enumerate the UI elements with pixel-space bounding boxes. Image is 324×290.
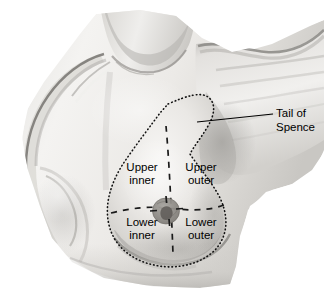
quadrant-label-upper-outer-line1: Upper xyxy=(175,161,227,174)
quadrant-label-lower-outer-line1: Lower xyxy=(175,216,227,229)
quadrant-label-lower-outer: Lower outer xyxy=(175,216,227,241)
tail-of-spence-label-line1: Tail of xyxy=(276,107,315,121)
tail-of-spence-label-line2: Spence xyxy=(276,121,315,135)
anatomy-illustration xyxy=(0,0,324,290)
quadrant-label-lower-outer-line2: outer xyxy=(175,229,227,242)
breast-anatomy-figure: Upper inner Upper outer Lower inner Lowe… xyxy=(0,0,324,290)
quadrant-label-upper-outer-line2: outer xyxy=(175,174,227,187)
quadrant-label-lower-inner-line2: inner xyxy=(117,229,167,242)
quadrant-label-upper-inner: Upper inner xyxy=(117,161,167,186)
quadrant-label-lower-inner: Lower inner xyxy=(117,216,167,241)
tail-of-spence-label: Tail of Spence xyxy=(276,107,315,134)
quadrant-label-upper-inner-line2: inner xyxy=(117,174,167,187)
quadrant-label-lower-inner-line1: Lower xyxy=(117,216,167,229)
quadrant-label-upper-outer: Upper outer xyxy=(175,161,227,186)
quadrant-label-upper-inner-line1: Upper xyxy=(117,161,167,174)
